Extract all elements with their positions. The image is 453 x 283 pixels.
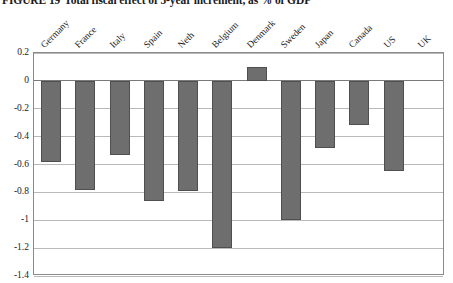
gridline bbox=[34, 53, 443, 54]
bar-belgium bbox=[212, 81, 232, 248]
y-axis-tick-label: -0.2 bbox=[0, 103, 29, 113]
gridline bbox=[34, 276, 443, 277]
y-axis-tick-label: -0.8 bbox=[0, 186, 29, 196]
plot-area bbox=[33, 52, 444, 275]
y-axis-tick-label: 0 bbox=[0, 75, 29, 85]
bar-neth bbox=[178, 81, 198, 191]
bar-spain bbox=[144, 81, 164, 201]
bar-sweden bbox=[281, 81, 301, 220]
bar-denmark bbox=[247, 67, 267, 81]
bar-canada bbox=[349, 81, 369, 126]
y-axis-tick-label: 0.2 bbox=[0, 47, 29, 57]
bar-france bbox=[75, 81, 95, 190]
gridline bbox=[34, 220, 443, 221]
gridline bbox=[34, 192, 443, 193]
y-axis-tick-label: -1 bbox=[0, 214, 29, 224]
y-axis-tick-label: -0.4 bbox=[0, 131, 29, 141]
bar-us bbox=[384, 81, 404, 172]
y-axis-tick-label: -1.4 bbox=[0, 270, 29, 280]
y-axis-tick-label: -0.6 bbox=[0, 159, 29, 169]
figure-container: FIGURE 19Total fiscal effect of 5-year i… bbox=[0, 0, 453, 283]
y-axis-tick-label: -1.2 bbox=[0, 242, 29, 252]
gridline bbox=[34, 248, 443, 249]
bar-germany bbox=[41, 81, 61, 162]
bar-japan bbox=[315, 81, 335, 148]
bar-italy bbox=[110, 81, 130, 155]
